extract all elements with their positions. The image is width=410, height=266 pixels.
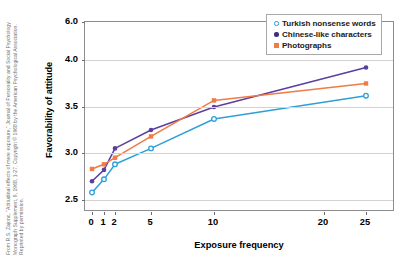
y-axis-tick-label: 3.5 <box>38 101 78 111</box>
x-axis-tick <box>366 212 367 215</box>
x-axis-tick <box>92 212 93 215</box>
gridline <box>85 200 393 201</box>
x-axis-tick-label: 10 <box>198 217 228 227</box>
data-point <box>149 146 154 151</box>
figure-container: From R.S. Zajonc, "Attitudinal effects o… <box>0 0 410 266</box>
gridline <box>85 107 393 108</box>
x-axis-tick-label: 25 <box>350 217 380 227</box>
x-axis-tick <box>104 212 105 215</box>
series-line <box>92 96 366 193</box>
data-point <box>102 162 106 166</box>
data-point <box>212 117 217 122</box>
data-point <box>149 134 153 138</box>
y-axis-tick-label: 2.5 <box>38 194 78 204</box>
y-axis-tick <box>82 22 85 23</box>
data-point <box>90 179 95 184</box>
data-point <box>113 156 117 160</box>
legend-label: Photographs <box>282 41 331 50</box>
data-point <box>102 168 107 173</box>
data-point <box>113 162 118 167</box>
open-circle-icon <box>271 21 282 25</box>
data-point <box>149 128 154 133</box>
x-axis-tick <box>115 212 116 215</box>
gridline <box>85 153 393 154</box>
gridline <box>85 60 393 61</box>
data-point <box>364 93 369 98</box>
data-point <box>364 65 369 70</box>
data-point <box>102 177 107 182</box>
data-point <box>364 81 368 85</box>
x-axis-tick <box>151 212 152 215</box>
x-axis-tick-label: 5 <box>135 217 165 227</box>
data-point <box>113 146 118 151</box>
x-axis-tick-label: 2 <box>99 217 129 227</box>
x-axis-title: Exposure frequency <box>84 240 394 250</box>
square-icon <box>271 43 282 47</box>
series-line <box>92 68 366 182</box>
legend-item-chinese: Chinese-like characters <box>271 29 376 40</box>
legend-item-photographs: Photographs <box>271 40 376 51</box>
y-axis-tick <box>82 200 85 201</box>
legend-label: Chinese-like characters <box>282 30 372 39</box>
source-credit: From R.S. Zajonc, "Attitudinal effects o… <box>0 0 30 266</box>
y-axis-tick <box>82 60 85 61</box>
y-axis-tick-label: 6.0 <box>38 16 78 26</box>
data-point <box>90 167 94 171</box>
x-axis-tick <box>214 212 215 215</box>
x-axis-tick <box>324 212 325 215</box>
filled-circle-icon <box>271 32 282 36</box>
y-axis-tick <box>82 107 85 108</box>
y-axis-tick <box>82 153 85 154</box>
data-point <box>90 190 95 195</box>
x-axis-tick-label: 20 <box>308 217 338 227</box>
source-credit-text: From R.S. Zajonc, "Attitudinal effects o… <box>5 5 25 255</box>
y-axis-tick-label: 4.0 <box>38 54 78 64</box>
y-axis-tick-label: 3.0 <box>38 147 78 157</box>
legend: Turkish nonsense words Chinese-like char… <box>266 14 382 55</box>
legend-item-turkish: Turkish nonsense words <box>271 18 376 29</box>
data-point <box>212 98 216 102</box>
legend-label: Turkish nonsense words <box>282 19 376 28</box>
